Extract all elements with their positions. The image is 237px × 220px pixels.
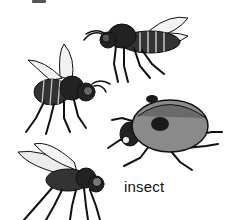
caption-label: insect bbox=[124, 178, 164, 195]
bee-icon bbox=[26, 44, 110, 134]
insect-illustration: insect bbox=[0, 0, 237, 220]
bee-icon bbox=[84, 17, 188, 82]
ladybug-icon bbox=[108, 95, 222, 170]
fly-icon bbox=[18, 143, 104, 220]
